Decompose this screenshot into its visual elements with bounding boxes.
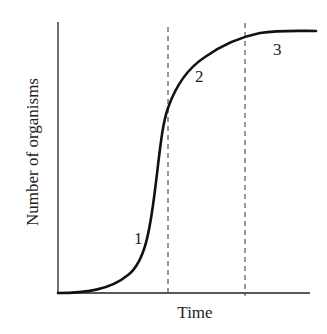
- phase-label-1: 1: [134, 229, 143, 248]
- phase-label-3: 3: [273, 40, 282, 59]
- y-axis-label: Number of organisms: [23, 78, 42, 226]
- growth-curve: [58, 31, 316, 293]
- x-axis-label: Time: [177, 303, 212, 322]
- phase-label-2: 2: [195, 67, 204, 86]
- growth-chart: 1 2 3 Time Number of organisms: [0, 0, 327, 334]
